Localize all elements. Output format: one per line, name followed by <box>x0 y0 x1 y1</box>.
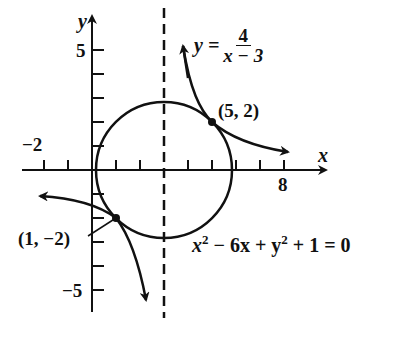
hyperbola-fraction: 4 x − 3 <box>223 26 263 65</box>
circle-eq-x: x <box>192 234 202 256</box>
tick-label-x-8: 8 <box>278 174 288 196</box>
hyperbola-denominator: x − 3 <box>223 46 263 65</box>
circle-equation: x2 − 6x + y2 + 1 = 0 <box>192 232 351 257</box>
x-axis-label: x <box>318 144 328 167</box>
circle-eq-middle: − 6x + y <box>209 234 282 256</box>
point-label-5-2: (5, 2) <box>218 100 259 122</box>
tick-label-y-5: 5 <box>76 40 86 62</box>
circle-eq-tail: + 1 = 0 <box>288 234 351 256</box>
point-label-1-neg2: (1, −2) <box>18 228 70 250</box>
hyperbola-equation-lhs: y = <box>194 34 219 57</box>
hyperbola-left-branch <box>40 196 116 218</box>
tick-label-y-neg5: −5 <box>62 280 82 302</box>
point-5-2 <box>208 118 216 126</box>
y-axis-label: y <box>78 10 87 33</box>
hyperbola-equation: y = 4 x − 3 <box>194 26 263 65</box>
hyperbola-numerator: 4 <box>236 26 252 46</box>
graph-figure: y x −2 8 5 −5 y = 4 x − 3 (5, 2) (1, −2)… <box>0 0 396 346</box>
tick-label-x-neg2: −2 <box>22 134 42 156</box>
